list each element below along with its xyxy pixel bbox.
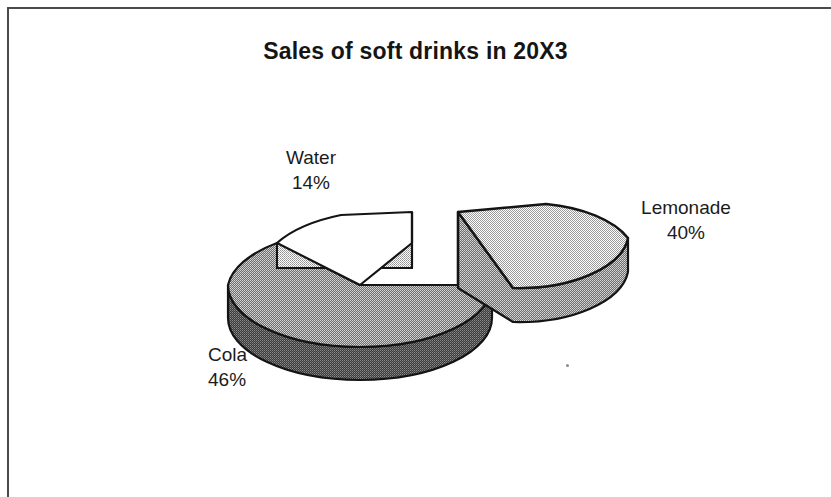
slice-label-water-name: Water (256, 145, 366, 170)
pie-slice-lemonade[interactable] (458, 204, 628, 322)
slice-label-cola: Cola 46% (208, 342, 298, 392)
slice-label-cola-percent: 46% (208, 367, 298, 392)
slice-label-lemonade-percent: 40% (626, 220, 746, 245)
pie-chart-svg (0, 0, 831, 497)
scan-artifact-speck (566, 364, 569, 367)
chart-page: Sales of soft drinks in 20X3 (0, 0, 831, 497)
slice-label-cola-name: Cola (208, 342, 298, 367)
slice-label-lemonade-name: Lemonade (626, 195, 746, 220)
pie-chart-stage: Water 14% Lemonade 40% Cola 46% (0, 0, 831, 497)
slice-label-lemonade: Lemonade 40% (626, 195, 746, 245)
slice-label-water-percent: 14% (256, 170, 366, 195)
slice-label-water: Water 14% (256, 145, 366, 195)
